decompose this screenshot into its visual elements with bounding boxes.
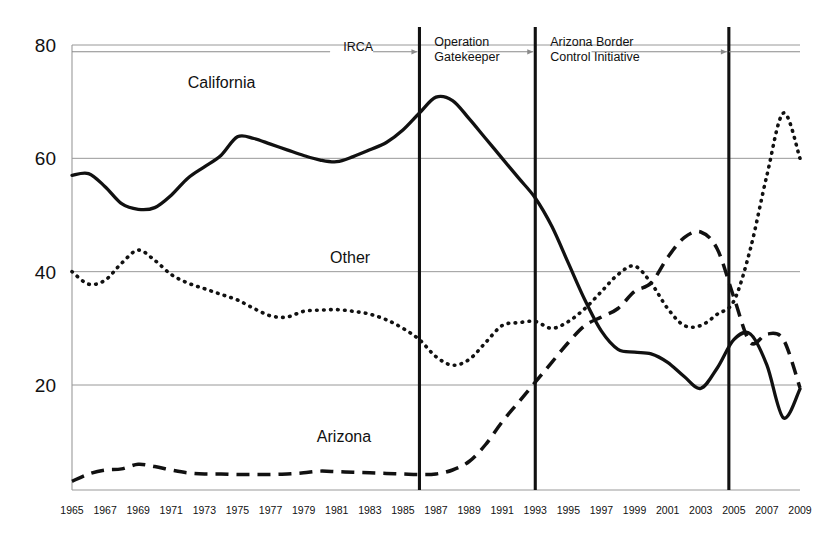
x-tick-label-1997: 1997 — [590, 504, 614, 516]
x-tick-label-1989: 1989 — [457, 504, 481, 516]
annotation-label-2-line-2: Gatekeeper — [434, 50, 499, 64]
series-label-arizona: Arizona — [317, 428, 371, 445]
x-tick-label-1971: 1971 — [160, 504, 184, 516]
x-tick-label-1973: 1973 — [193, 504, 217, 516]
x-tick-label-1967: 1967 — [93, 504, 117, 516]
x-tick-label-1975: 1975 — [226, 504, 250, 516]
x-tick-label-2005: 2005 — [722, 504, 746, 516]
y-tick-label-80: 80 — [35, 35, 56, 56]
y-tick-label-60: 60 — [35, 148, 56, 169]
x-tick-label-1965: 1965 — [60, 504, 84, 516]
x-tick-label-1995: 1995 — [557, 504, 581, 516]
y-tick-label-40: 40 — [35, 262, 56, 283]
annotation-label-1-line-1: IRCA — [343, 40, 374, 54]
x-axis-tick-labels: 1965196719691971197319751977197919811983… — [60, 504, 812, 516]
annotation-label-3-line-2: Control Initiative — [550, 50, 640, 64]
x-tick-label-1977: 1977 — [259, 504, 283, 516]
x-tick-label-1993: 1993 — [524, 504, 548, 516]
x-tick-label-1969: 1969 — [127, 504, 151, 516]
x-tick-label-1987: 1987 — [424, 504, 448, 516]
chart-container: 80604020 1965196719691971197319751977197… — [0, 0, 823, 544]
x-tick-label-2001: 2001 — [656, 504, 680, 516]
annotation-label-2-line-1: Operation — [434, 35, 489, 49]
x-tick-label-1991: 1991 — [491, 504, 515, 516]
x-tick-label-1985: 1985 — [391, 504, 415, 516]
series-label-other: Other — [330, 249, 371, 266]
annotation-label-3-line-1: Arizona Border — [550, 35, 633, 49]
x-tick-label-1983: 1983 — [358, 504, 382, 516]
x-tick-label-1981: 1981 — [325, 504, 349, 516]
x-tick-label-2009: 2009 — [788, 504, 812, 516]
series-label-california: California — [188, 74, 256, 91]
x-tick-label-2003: 2003 — [689, 504, 713, 516]
x-tick-label-2007: 2007 — [755, 504, 779, 516]
x-tick-label-1979: 1979 — [292, 504, 316, 516]
x-tick-label-1999: 1999 — [623, 504, 647, 516]
immigration-line-chart: 80604020 1965196719691971197319751977197… — [0, 0, 823, 544]
y-tick-label-20: 20 — [35, 375, 56, 396]
